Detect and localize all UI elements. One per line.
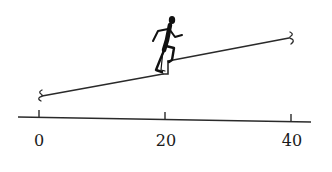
incline-diagram: 0 20 40 [0, 0, 332, 172]
right-brace-icon [290, 32, 294, 44]
tick-label-20: 20 [156, 131, 176, 150]
tick-label-40: 40 [282, 131, 302, 150]
diagram-canvas: 0 20 40 [0, 0, 332, 172]
step [163, 61, 168, 74]
upper-incline [168, 38, 289, 61]
tick-label-0: 0 [34, 131, 44, 150]
position-axis: 0 20 40 [18, 110, 311, 150]
lower-incline [42, 74, 163, 96]
